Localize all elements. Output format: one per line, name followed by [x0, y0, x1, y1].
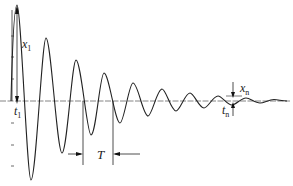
label-period-T: T: [97, 148, 104, 161]
label-period-text: T: [97, 147, 104, 162]
label-t1: t1: [14, 105, 21, 120]
t1-arrowhead-bottom: [15, 96, 19, 104]
label-tn: tn: [222, 104, 229, 119]
label-xn: xn: [240, 82, 249, 97]
label-x1-sub: 1: [27, 44, 31, 53]
label-t1-sub: 1: [17, 111, 21, 120]
period-arrowhead-left: [76, 152, 83, 156]
period-arrowhead-right: [113, 152, 120, 156]
label-tn-sub: n: [225, 110, 229, 119]
xn-arrowhead-top: [231, 92, 235, 98]
label-xn-sub: n: [245, 88, 249, 97]
label-x1: x1: [22, 38, 31, 53]
